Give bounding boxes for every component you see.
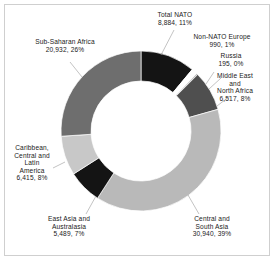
slice-label-central-south-asia: Central and South Asia 30,940, 39% <box>176 215 248 238</box>
label-line: North Africa <box>205 87 265 95</box>
label-line: 30,940, 39% <box>176 230 248 238</box>
label-line: Middle East <box>205 72 265 80</box>
leader-central-south-asia <box>188 195 199 214</box>
label-line: 6,415, 8% <box>8 174 56 182</box>
label-line: Non-NATO Europe <box>186 33 258 41</box>
slice-label-middle-east-north-africa: Middle East and North Africa 6,517, 8% <box>205 72 265 102</box>
label-line: 195, 0% <box>205 60 257 68</box>
label-line: 5,489, 7% <box>33 230 105 238</box>
label-line: Central and <box>176 215 248 223</box>
slice-label-east-asia-australasia: East Asia and Australasia 5,489, 7% <box>33 215 105 238</box>
leader-east-asia <box>86 196 96 214</box>
label-line: and <box>205 80 265 88</box>
label-line: America <box>8 167 56 175</box>
label-line: Caribbean, <box>8 144 56 152</box>
leader-total-nato <box>161 30 174 55</box>
label-line: 8,884, 11% <box>143 19 207 27</box>
label-line: Latin <box>8 159 56 167</box>
slice-label-caribbean-central-latin-america: Caribbean, Central and Latin America 6,4… <box>8 144 56 182</box>
label-line: Australasia <box>33 223 105 231</box>
label-line: South Asia <box>176 223 248 231</box>
label-line: Total NATO <box>143 11 207 19</box>
label-line: East Asia and <box>33 215 105 223</box>
donut-slice[interactable] <box>98 109 221 211</box>
donut-slices <box>61 51 221 211</box>
slice-label-sub-saharan-africa: Sub-Saharan Africa 20,932, 26% <box>20 38 110 53</box>
slice-label-non-nato-europe: Non-NATO Europe 990, 1% <box>186 33 258 48</box>
leader-sub-saharan <box>70 62 82 77</box>
chart-container: Total NATO 8,884, 11% Non-NATO Europe 99… <box>0 0 275 261</box>
label-line: 990, 1% <box>186 41 258 49</box>
label-line: Sub-Saharan Africa <box>20 38 110 46</box>
donut-slice[interactable] <box>61 51 141 136</box>
slice-label-total-nato: Total NATO 8,884, 11% <box>143 11 207 26</box>
label-line: Central and <box>8 152 56 160</box>
label-line: Russia <box>205 52 257 60</box>
slice-label-russia: Russia 195, 0% <box>205 52 257 67</box>
label-line: 20,932, 26% <box>20 46 110 54</box>
label-line: 6,517, 8% <box>205 95 265 103</box>
